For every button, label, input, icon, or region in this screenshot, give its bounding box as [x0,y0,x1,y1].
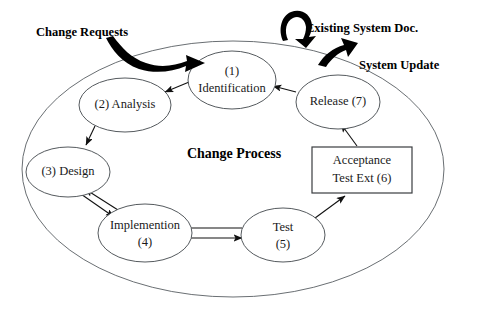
node-identification-line1: (1) [225,64,240,78]
node-test-line1: Test [273,220,294,234]
arrow-analysis-to-design [86,126,95,145]
node-analysis[interactable]: (2) Analysis [79,78,171,132]
change-requests-arrow [106,36,205,72]
node-design[interactable]: (3) Design [26,147,110,197]
change-process-diagram: (1) Identification (2) Analysis (3) Desi… [0,0,482,309]
node-acceptance-test-ext[interactable]: Acceptance Test Ext (6) [312,147,412,193]
label-system-update: System Update [359,58,440,72]
system-update-arrow [318,38,358,67]
node-implementation[interactable]: Implemention (4) [98,204,192,262]
node-implementation-line1: Implemention [110,218,181,232]
node-release-label: Release (7) [310,94,367,108]
node-test[interactable]: Test (5) [241,208,325,262]
node-implementation-line2: (4) [138,235,153,249]
node-identification-line2: Identification [198,81,266,95]
label-existing-system-doc: Existing System Doc. [306,21,418,35]
center-process-label: Change Process [187,146,282,161]
node-design-label: (3) Design [41,164,95,178]
node-identification[interactable]: (1) Identification [188,51,276,109]
node-release[interactable]: Release (7) [296,75,380,129]
arrow-release-to-identification [273,86,296,92]
node-acceptance-line1: Acceptance [333,153,392,167]
diagram-canvas: (1) Identification (2) Analysis (3) Desi… [0,0,482,309]
node-acceptance-line2: Test Ext (6) [333,171,392,185]
node-test-line2: (5) [276,237,291,251]
arrow-test-to-acceptance [311,196,345,221]
node-analysis-label: (2) Analysis [95,97,156,111]
label-change-requests: Change Requests [36,25,128,39]
